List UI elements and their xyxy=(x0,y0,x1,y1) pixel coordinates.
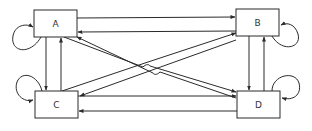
edge-a-to-d xyxy=(64,37,236,92)
edge-a-to-b xyxy=(77,17,235,18)
node-a-label: A xyxy=(52,19,59,29)
node-d-label: D xyxy=(255,100,262,110)
node-d[interactable]: D xyxy=(237,91,280,118)
edge-b-to-c xyxy=(80,40,236,96)
state-diagram: A B C D xyxy=(0,0,312,131)
node-b[interactable]: B xyxy=(236,9,279,36)
edge-c-to-b xyxy=(62,33,236,91)
edge-b-to-a xyxy=(78,31,236,32)
node-c[interactable]: C xyxy=(35,91,78,118)
node-a[interactable]: A xyxy=(34,10,77,37)
node-c-label: C xyxy=(53,100,59,110)
node-b-label: B xyxy=(254,18,260,28)
